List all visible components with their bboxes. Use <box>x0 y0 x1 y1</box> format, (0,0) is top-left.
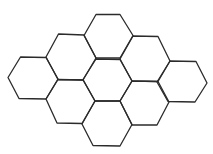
hexagon-diagram <box>0 0 213 154</box>
background <box>0 0 213 154</box>
